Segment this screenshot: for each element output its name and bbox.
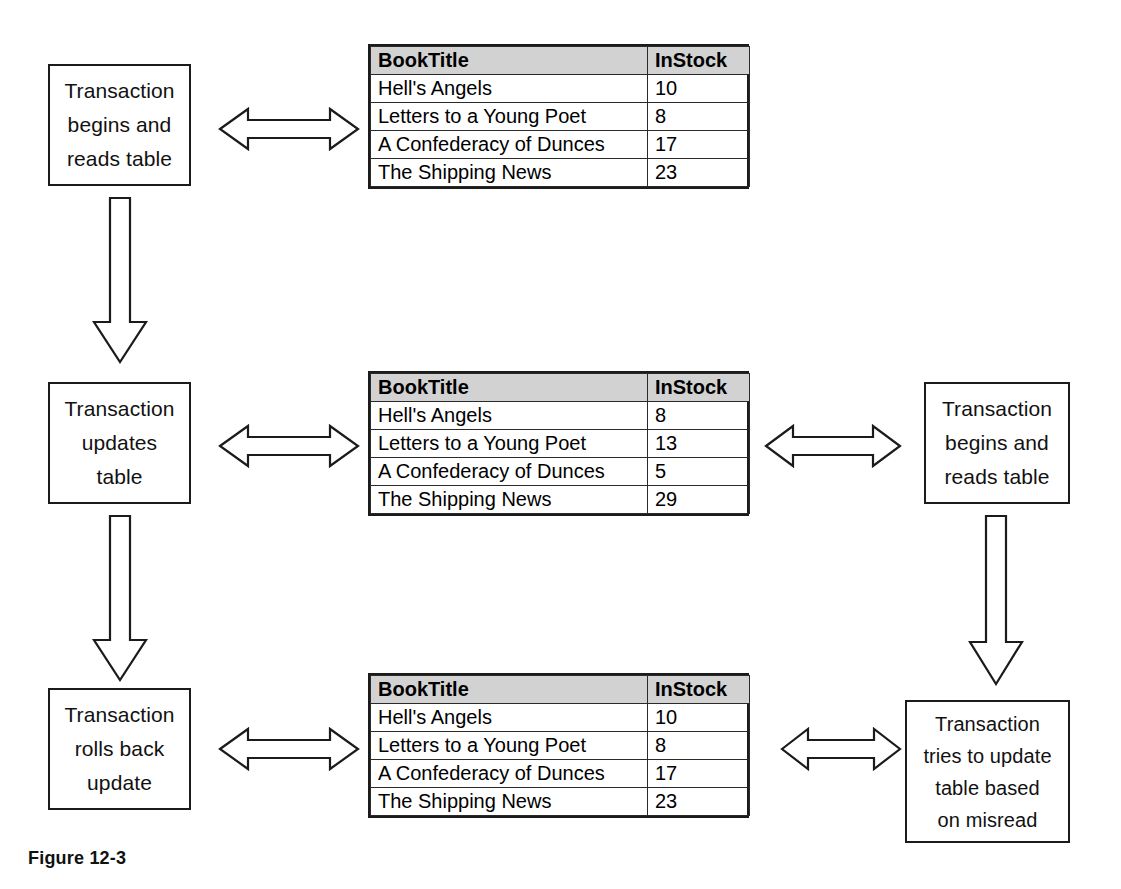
cell-booktitle: The Shipping News: [371, 788, 648, 816]
column-header-instock: InStock: [648, 676, 750, 704]
table-row: Hell's Angels 8: [371, 402, 750, 430]
column-header-booktitle: BookTitle: [371, 374, 648, 402]
process-box-line: on misread: [938, 804, 1038, 836]
process-box-transaction-begins-reads-1: Transaction begins and reads table: [48, 64, 191, 186]
process-box-line: Transaction: [64, 392, 174, 426]
double-headed-arrow-left-3: [218, 725, 360, 773]
down-arrow-left-1: [88, 196, 152, 364]
cell-booktitle: Letters to a Young Poet: [371, 732, 648, 760]
down-arrow-right-1: [964, 514, 1028, 686]
cell-instock: 23: [648, 159, 750, 187]
process-box-line: Transaction: [935, 708, 1040, 740]
double-headed-arrow-right-2: [764, 422, 902, 470]
table-row: Letters to a Young Poet 8: [371, 103, 750, 131]
process-box-transaction-begins-reads-2: Transaction begins and reads table: [924, 382, 1070, 504]
cell-booktitle: Letters to a Young Poet: [371, 430, 648, 458]
table-row: The Shipping News 23: [371, 788, 750, 816]
cell-instock: 13: [648, 430, 750, 458]
cell-booktitle: A Confederacy of Dunces: [371, 458, 648, 486]
process-box-line: updates: [82, 426, 157, 460]
process-box-line: Transaction: [64, 698, 174, 732]
column-header-booktitle: BookTitle: [371, 676, 648, 704]
cell-instock: 8: [648, 103, 750, 131]
process-box-line: table based: [935, 772, 1040, 804]
double-headed-arrow-right-3: [780, 725, 902, 773]
table-header-row: BookTitle InStock: [371, 676, 750, 704]
process-box-line: reads table: [67, 142, 172, 176]
process-box-line: begins and: [68, 108, 172, 142]
table-row: A Confederacy of Dunces 17: [371, 760, 750, 788]
table-header-row: BookTitle InStock: [371, 47, 750, 75]
double-headed-arrow-left-2: [218, 422, 360, 470]
cell-booktitle: The Shipping News: [371, 486, 648, 514]
process-box-line: begins and: [945, 426, 1049, 460]
cell-instock: 10: [648, 704, 750, 732]
table-row: Hell's Angels 10: [371, 75, 750, 103]
cell-booktitle: Hell's Angels: [371, 75, 648, 103]
process-box-line: tries to update: [923, 740, 1051, 772]
table-row: The Shipping News 23: [371, 159, 750, 187]
column-header-booktitle: BookTitle: [371, 47, 648, 75]
cell-instock: 8: [648, 732, 750, 760]
cell-booktitle: Hell's Angels: [371, 402, 648, 430]
column-header-instock: InStock: [648, 47, 750, 75]
process-box-line: reads table: [944, 460, 1049, 494]
cell-instock: 23: [648, 788, 750, 816]
process-box-transaction-updates-table: Transaction updates table: [48, 382, 191, 504]
table-row: A Confederacy of Dunces 17: [371, 131, 750, 159]
table-row: Hell's Angels 10: [371, 704, 750, 732]
table-row: The Shipping News 29: [371, 486, 750, 514]
data-table-2: BookTitle InStock Hell's Angels 8 Letter…: [368, 371, 749, 516]
cell-instock: 10: [648, 75, 750, 103]
cell-instock: 5: [648, 458, 750, 486]
process-box-line: rolls back: [75, 732, 165, 766]
cell-instock: 8: [648, 402, 750, 430]
process-box-line: Transaction: [942, 392, 1052, 426]
cell-booktitle: A Confederacy of Dunces: [371, 131, 648, 159]
cell-instock: 17: [648, 760, 750, 788]
figure-caption: Figure 12-3: [28, 848, 126, 869]
process-box-line: Transaction: [64, 74, 174, 108]
table-row: Letters to a Young Poet 8: [371, 732, 750, 760]
cell-booktitle: A Confederacy of Dunces: [371, 760, 648, 788]
process-box-transaction-tries-update-misread: Transaction tries to update table based …: [905, 700, 1070, 843]
down-arrow-left-2: [88, 514, 152, 682]
cell-instock: 17: [648, 131, 750, 159]
process-box-line: update: [87, 766, 152, 800]
data-table-3: BookTitle InStock Hell's Angels 10 Lette…: [368, 673, 749, 818]
process-box-transaction-rolls-back-update: Transaction rolls back update: [48, 688, 191, 810]
process-box-line: table: [96, 460, 142, 494]
table-header-row: BookTitle InStock: [371, 374, 750, 402]
table-row: A Confederacy of Dunces 5: [371, 458, 750, 486]
column-header-instock: InStock: [648, 374, 750, 402]
figure-container: Transaction begins and reads table BookT…: [0, 0, 1121, 889]
table-row: Letters to a Young Poet 13: [371, 430, 750, 458]
cell-booktitle: Hell's Angels: [371, 704, 648, 732]
data-table-1: BookTitle InStock Hell's Angels 10 Lette…: [368, 44, 749, 189]
double-headed-arrow-left-1: [218, 105, 360, 153]
cell-instock: 29: [648, 486, 750, 514]
cell-booktitle: Letters to a Young Poet: [371, 103, 648, 131]
cell-booktitle: The Shipping News: [371, 159, 648, 187]
